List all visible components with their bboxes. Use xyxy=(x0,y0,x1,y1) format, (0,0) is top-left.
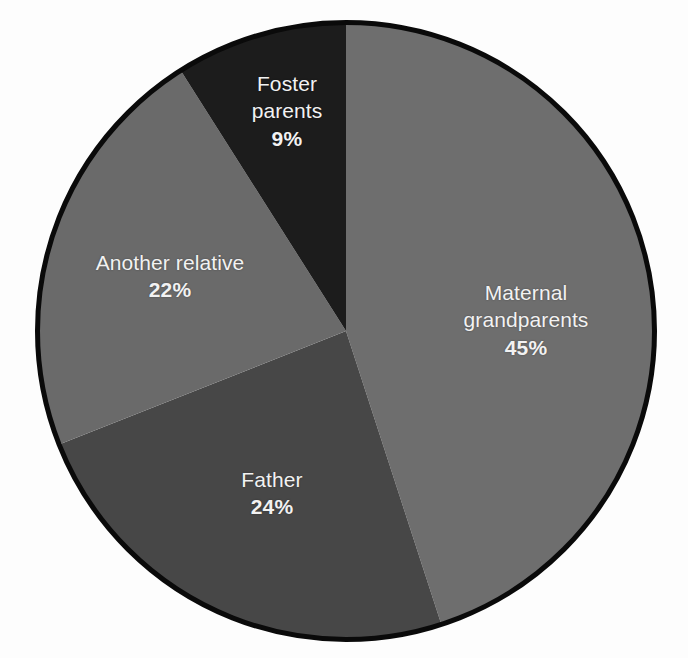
pie-chart-screenshot: Maternal grandparents 45% Father 24% Ano… xyxy=(0,0,688,658)
pie-chart-svg xyxy=(0,0,688,658)
pie-chart xyxy=(0,0,688,658)
